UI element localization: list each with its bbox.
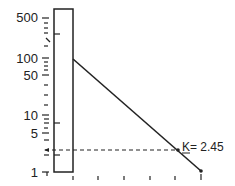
y-label-1: 1 [6, 166, 38, 179]
decay-line [73, 59, 201, 171]
k-value: = 2.45 [190, 140, 224, 154]
k-symbol: K [182, 140, 190, 154]
k-arrow-icon [44, 148, 49, 152]
y-ticks [42, 18, 50, 176]
x-ticks [73, 174, 201, 180]
chart-canvas [0, 0, 235, 186]
y-label-500: 500 [6, 11, 38, 24]
k-annotation: K= 2.45 [182, 141, 224, 153]
box-inner-ticks [54, 34, 60, 155]
end-point [199, 169, 203, 173]
y-label-5: 5 [6, 127, 38, 140]
y-label-10: 10 [6, 109, 38, 122]
y-label-50: 50 [6, 69, 38, 82]
intersection-point [176, 148, 180, 152]
y-label-100: 100 [6, 52, 38, 65]
